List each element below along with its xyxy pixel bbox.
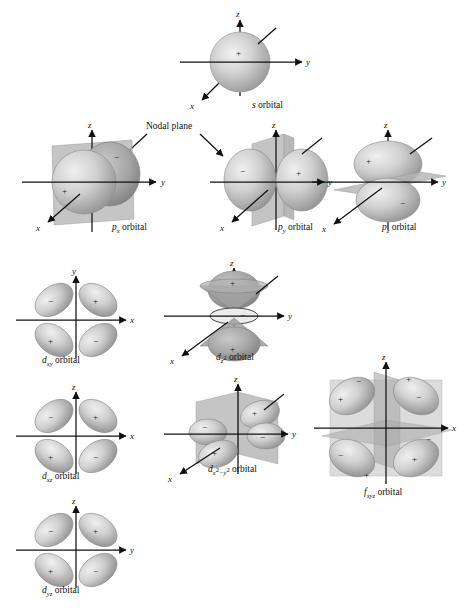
sign-negative: −	[48, 296, 53, 306]
orbital-dx2y2: z + − − + y x	[160, 378, 315, 478]
orbital-label-dxz: dxz orbital	[42, 471, 79, 483]
sign-negative: −	[93, 452, 98, 462]
orbital-pz: z + − y x	[312, 124, 462, 234]
orbital-label-fxyz-text: fxyz orbital	[364, 487, 402, 497]
sign-positive: +	[93, 412, 98, 422]
axis-label-x: x	[169, 356, 174, 366]
orbital-px: z − y x +	[22, 124, 187, 234]
orbital-label-dyz-text: dyz orbital	[42, 585, 79, 595]
sign-positive: +	[412, 454, 417, 464]
axis-label-z: z	[233, 374, 238, 384]
sign-positive: +	[406, 374, 411, 384]
sign-positive: +	[296, 168, 301, 178]
sign-positive: +	[48, 336, 53, 346]
orbital-label-dx2y2: dx2−y2 orbital	[208, 464, 257, 476]
dxz-lobe-top-left	[29, 392, 79, 439]
sign-positive: +	[366, 156, 371, 166]
sign-negative: −	[240, 166, 245, 176]
axis-label-x: x	[129, 315, 134, 325]
sign-positive: +	[236, 48, 241, 58]
sign-positive: +	[364, 470, 369, 480]
orbital-dxy: y x − + + −	[14, 268, 154, 360]
axis-label-x: x	[129, 431, 134, 441]
orbital-label-s-text: s orbital	[252, 100, 283, 110]
orbital-label-s: s orbital	[252, 100, 283, 110]
orbital-s: z x y +	[180, 8, 330, 113]
sign-negative: −	[48, 526, 53, 536]
orbital-label-dz2-text: dz2 orbital	[216, 352, 254, 362]
orbital-figure: z x y + s orbital Nodal plane z	[0, 0, 466, 609]
sign-negative: −	[416, 392, 421, 402]
orbital-label-px-text: px orbital	[112, 222, 147, 232]
sign-negative: −	[48, 412, 53, 422]
axis-label-y: y	[287, 311, 292, 321]
axis-label-z: z	[71, 496, 76, 506]
axis-label-y: y	[441, 177, 446, 187]
axis-label-y: y	[71, 266, 76, 276]
axis-label-y: y	[291, 429, 296, 439]
axis-label-x: x	[35, 223, 40, 233]
sign-negative: −	[356, 376, 361, 386]
axis-label-y: y	[160, 177, 165, 187]
orbital-dyz: z y − + + −	[14, 498, 154, 590]
axis-label-x: x	[451, 423, 456, 433]
orbital-label-fxyz: fxyz orbital	[364, 487, 402, 499]
sign-positive: +	[252, 408, 257, 418]
orbital-dz2: z + − + y x	[160, 262, 310, 362]
axis-label-x: x	[167, 474, 172, 484]
sign-positive: +	[93, 296, 98, 306]
orbital-label-dxz-text: dxz orbital	[42, 471, 79, 481]
sign-positive: +	[230, 278, 235, 288]
sign-positive: +	[48, 566, 53, 576]
axis-label-x: x	[321, 224, 326, 234]
axis-label-z: z	[87, 120, 92, 130]
orbital-label-py: py orbital	[278, 222, 313, 234]
axis-label-z: z	[383, 120, 388, 130]
axis-label-y: y	[305, 57, 310, 67]
orbital-label-dyz: dyz orbital	[42, 585, 79, 597]
sign-positive: +	[338, 394, 343, 404]
sign-negative: −	[240, 310, 245, 320]
py-lobe-negative	[224, 149, 276, 211]
orbital-fxyz: z − + + − − + + − x	[312, 358, 464, 488]
orbital-label-dxy: dxy orbital	[42, 355, 80, 367]
sign-negative: −	[93, 336, 98, 346]
axis-label-y: y	[129, 545, 134, 555]
sign-negative: −	[93, 566, 98, 576]
sign-negative: −	[202, 422, 207, 432]
sign-negative: −	[114, 152, 119, 162]
orbital-label-px: px orbital	[112, 222, 147, 234]
orbital-label-dxy-text: dxy orbital	[42, 355, 80, 365]
axis-label-x: x	[189, 101, 194, 111]
sign-positive: +	[62, 186, 67, 196]
orbital-dxz: z x − + + −	[14, 384, 154, 476]
sign-positive: +	[48, 452, 53, 462]
axis-label-x: x	[219, 223, 224, 233]
orbital-label-dx2y2-text: dx2−y2 orbital	[208, 464, 257, 474]
axis-label-z: z	[381, 352, 386, 362]
dx2y2-lobe-right	[247, 423, 285, 449]
dyz-lobe-top-left	[29, 506, 79, 553]
orbital-label-dz2: dz2 orbital	[216, 352, 254, 364]
axis-label-z: z	[271, 120, 276, 130]
axis-label-z: z	[229, 258, 234, 268]
orbital-label-pz: pz orbital	[382, 222, 417, 234]
axis-label-z: z	[235, 9, 240, 19]
orbital-label-pz-text: pz orbital	[382, 222, 417, 232]
sign-negative: −	[400, 198, 405, 208]
dxy-lobe-top-left	[29, 276, 79, 323]
sign-negative: −	[338, 450, 343, 460]
orbital-label-py-text: py orbital	[278, 222, 313, 232]
sign-positive: +	[93, 526, 98, 536]
axis-label-z: z	[71, 382, 76, 392]
sign-negative: −	[426, 434, 431, 444]
